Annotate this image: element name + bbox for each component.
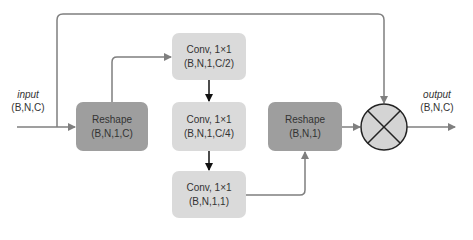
node-title: Reshape (92, 113, 132, 127)
output-label: output (B,N,C) (412, 88, 462, 114)
node-title: Conv, 1×1 (186, 43, 231, 57)
conv1-node: Conv, 1×1 (B,N,1,C/2) (172, 33, 246, 80)
node-title: Reshape (285, 113, 325, 127)
node-shape: (B,N,1,1) (189, 195, 229, 209)
input-shape: (B,N,C) (6, 101, 50, 114)
input-name: input (17, 89, 39, 100)
node-title: Conv, 1×1 (186, 181, 231, 195)
node-shape: (B,N,1,C/2) (184, 57, 234, 71)
reshape-output-node: Reshape (B,N,1) (268, 102, 342, 151)
multiply-icon (361, 104, 407, 150)
input-label: input (B,N,C) (6, 88, 50, 114)
output-name: output (423, 89, 451, 100)
reshape-to-conv1-arrow (112, 57, 171, 102)
conv2-node: Conv, 1×1 (B,N,1,C/4) (172, 102, 246, 151)
conv3-to-reshape-arrow (246, 152, 305, 195)
node-title: Conv, 1×1 (186, 113, 231, 127)
node-shape: (B,N,1,C) (91, 127, 133, 141)
node-shape: (B,N,1) (289, 127, 321, 141)
node-shape: (B,N,1,C/4) (184, 127, 234, 141)
reshape-input-node: Reshape (B,N,1,C) (76, 102, 148, 151)
conv3-node: Conv, 1×1 (B,N,1,1) (172, 171, 246, 218)
output-shape: (B,N,C) (412, 101, 462, 114)
